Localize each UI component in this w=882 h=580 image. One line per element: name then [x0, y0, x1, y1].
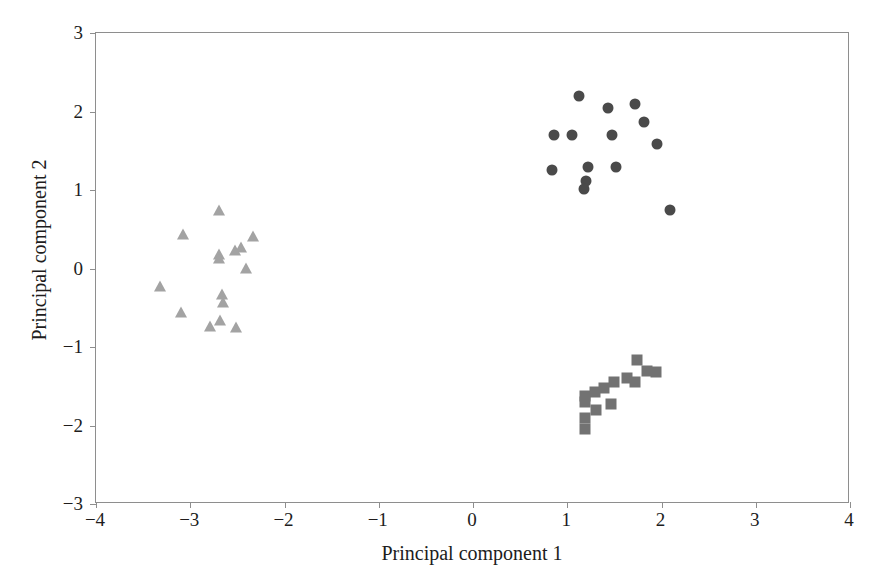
plot-area — [95, 32, 849, 503]
data-point-circle — [664, 205, 675, 216]
data-point-triangle — [175, 306, 187, 317]
data-point-triangle — [213, 205, 225, 216]
data-point-triangle — [240, 262, 252, 273]
y-tick-label: 1 — [74, 180, 84, 199]
x-tick-label: 2 — [656, 510, 666, 529]
data-point-square — [580, 424, 591, 435]
data-point-triangle — [247, 231, 259, 242]
y-tick-mark — [90, 347, 96, 348]
x-tick-label: 4 — [844, 510, 854, 529]
y-tick-label: 3 — [74, 23, 84, 42]
x-axis-title: Principal component 1 — [95, 543, 849, 563]
data-point-circle — [607, 130, 618, 141]
y-tick-mark — [90, 112, 96, 113]
data-point-triangle — [177, 228, 189, 239]
y-tick-mark — [90, 190, 96, 191]
data-point-circle — [573, 90, 584, 101]
data-point-square — [631, 355, 642, 366]
data-point-circle — [611, 162, 622, 173]
x-tick-label: −4 — [85, 510, 105, 529]
data-point-triangle — [154, 280, 166, 291]
data-point-square — [630, 376, 641, 387]
data-point-square — [609, 377, 620, 388]
data-point-triangle — [214, 315, 226, 326]
data-point-triangle — [217, 297, 229, 308]
y-tick-mark — [90, 269, 96, 270]
data-point-square — [590, 404, 601, 415]
y-tick-label: 2 — [74, 101, 84, 120]
y-tick-mark — [90, 426, 96, 427]
data-point-circle — [547, 164, 558, 175]
x-tick-mark — [850, 502, 851, 508]
data-point-circle — [602, 102, 613, 113]
y-axis-title: Principal component 2 — [29, 110, 49, 390]
x-tick-mark — [379, 502, 380, 508]
x-tick-mark — [567, 502, 568, 508]
x-tick-label: 1 — [562, 510, 572, 529]
x-tick-mark — [190, 502, 191, 508]
x-tick-label: −1 — [368, 510, 388, 529]
y-tick-label: −2 — [63, 415, 83, 434]
y-tick-mark — [90, 504, 96, 505]
y-tick-label: 0 — [74, 258, 84, 277]
data-point-triangle — [230, 321, 242, 332]
data-point-square — [605, 398, 616, 409]
x-tick-label: −3 — [179, 510, 199, 529]
data-point-triangle — [213, 253, 225, 264]
data-point-triangle — [204, 320, 216, 331]
x-tick-mark — [662, 502, 663, 508]
y-tick-mark — [90, 33, 96, 34]
x-tick-mark — [756, 502, 757, 508]
x-tick-mark — [473, 502, 474, 508]
data-point-circle — [579, 184, 590, 195]
y-tick-label: −1 — [63, 337, 83, 356]
data-point-circle — [651, 139, 662, 150]
data-point-square — [599, 382, 610, 393]
data-point-square — [580, 396, 591, 407]
y-tick-label: −3 — [63, 494, 83, 513]
data-point-circle — [630, 99, 641, 110]
x-tick-mark — [96, 502, 97, 508]
data-point-triangle — [229, 245, 241, 256]
data-point-square — [580, 413, 591, 424]
data-point-circle — [582, 162, 593, 173]
x-tick-label: −2 — [273, 510, 293, 529]
data-point-circle — [566, 130, 577, 141]
data-point-square — [650, 367, 661, 378]
data-point-circle — [549, 130, 560, 141]
x-tick-label: 3 — [750, 510, 760, 529]
x-tick-label: 0 — [467, 510, 477, 529]
x-tick-mark — [285, 502, 286, 508]
data-point-circle — [638, 117, 649, 128]
scatter-plot-figure: −4−3−2−101234 −3−2−10123 Principal compo… — [0, 0, 882, 580]
data-point-square — [589, 386, 600, 397]
